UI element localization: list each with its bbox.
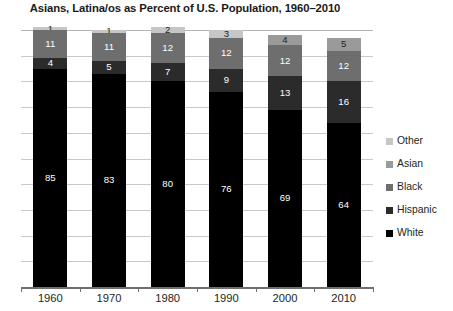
bar-segment-value: 12 [151, 43, 185, 53]
bar-segment-asian[interactable]: 5 [327, 38, 361, 51]
bar-column[interactable]: 111583 [92, 30, 126, 287]
bar-segment-value: 83 [92, 176, 126, 186]
bar-segment-hispanic[interactable]: 9 [209, 69, 243, 92]
legend-label: Other [397, 136, 423, 146]
bar-segment-value: 5 [92, 62, 126, 72]
legend-swatch-icon [386, 230, 393, 237]
legend-item-other[interactable]: Other [386, 130, 452, 153]
legend-item-hispanic[interactable]: Hispanic [386, 199, 452, 222]
bar-segment-white[interactable]: 85 [33, 69, 67, 287]
bar-segment-value: 9 [209, 75, 243, 85]
bar-column[interactable]: 312976 [209, 30, 243, 287]
legend-item-white[interactable]: White [386, 222, 452, 245]
x-axis-label: 2010 [315, 292, 373, 304]
bar-series-group: 11148511158321278031297641213695121664 [21, 30, 373, 287]
legend-label: White [397, 228, 424, 238]
bar-segment-value: 4 [268, 36, 302, 46]
plot-area: 11148511158321278031297641213695121664 [21, 30, 373, 287]
chart-title: Asians, Latina/os as Percent of U.S. Pop… [0, 2, 370, 14]
bar-segment-other[interactable]: 3 [209, 30, 243, 38]
legend-swatch-icon [386, 207, 393, 214]
legend-item-black[interactable]: Black [386, 176, 452, 199]
bar-segment-white[interactable]: 83 [92, 74, 126, 287]
bar-column[interactable]: 111485 [33, 27, 67, 287]
bar-segment-black[interactable]: 12 [268, 45, 302, 76]
x-axis-label: 1960 [21, 292, 79, 304]
bar-segment-hispanic[interactable]: 13 [268, 76, 302, 109]
bar-segment-black[interactable]: 11 [92, 33, 126, 61]
bar-segment-black[interactable]: 12 [327, 51, 361, 82]
chart-legend: OtherAsianBlackHispanicWhite [386, 130, 452, 245]
legend-item-asian[interactable]: Asian [386, 153, 452, 176]
bar-segment-black[interactable]: 12 [151, 33, 185, 64]
x-axis-label: 2000 [256, 292, 314, 304]
x-axis-label: 1980 [139, 292, 197, 304]
bar-segment-value: 64 [327, 200, 361, 210]
bar-segment-white[interactable]: 69 [268, 110, 302, 287]
bar-segment-value: 16 [327, 97, 361, 107]
legend-swatch-icon [386, 138, 393, 145]
bar-segment-white[interactable]: 76 [209, 92, 243, 287]
bar-segment-value: 69 [268, 194, 302, 204]
bar-segment-value: 13 [268, 88, 302, 98]
bar-segment-value: 5 [327, 39, 361, 49]
bar-segment-hispanic[interactable]: 16 [327, 81, 361, 122]
bar-column[interactable]: 212780 [151, 27, 185, 287]
bar-column[interactable]: 5121664 [327, 38, 361, 287]
legend-swatch-icon [386, 184, 393, 191]
bar-column[interactable]: 4121369 [268, 35, 302, 287]
bar-segment-hispanic[interactable]: 5 [92, 61, 126, 74]
bar-segment-value: 11 [92, 42, 126, 52]
bar-segment-value: 76 [209, 185, 243, 195]
x-axis-tick [373, 287, 374, 292]
bar-segment-value: 11 [33, 39, 67, 49]
legend-label: Black [397, 182, 422, 192]
legend-label: Hispanic [397, 205, 437, 215]
bar-segment-value: 7 [151, 68, 185, 78]
bar-segment-hispanic[interactable]: 7 [151, 63, 185, 81]
bar-segment-white[interactable]: 80 [151, 81, 185, 287]
bar-segment-value: 12 [327, 61, 361, 71]
bar-segment-asian[interactable]: 4 [268, 35, 302, 45]
bar-segment-black[interactable]: 12 [209, 38, 243, 69]
bar-segment-value: 85 [33, 173, 67, 183]
legend-label: Asian [397, 159, 423, 169]
legend-swatch-icon [386, 161, 393, 168]
x-axis-label: 1970 [80, 292, 138, 304]
bar-segment-value: 12 [209, 48, 243, 58]
bar-segment-hispanic[interactable]: 4 [33, 58, 67, 68]
bar-segment-value: 12 [268, 56, 302, 66]
x-axis-label: 1990 [197, 292, 255, 304]
bar-segment-value: 4 [33, 59, 67, 69]
bar-segment-value: 80 [151, 179, 185, 189]
chart-figure: Asians, Latina/os as Percent of U.S. Pop… [0, 0, 453, 311]
bar-segment-white[interactable]: 64 [327, 123, 361, 287]
bar-segment-black[interactable]: 11 [33, 30, 67, 58]
